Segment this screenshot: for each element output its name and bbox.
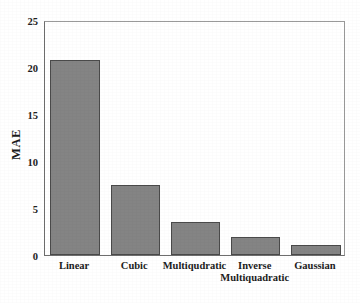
- y-axis-tick-label: 15: [8, 110, 38, 121]
- figure-canvas: MAE 0510152025 LinearCubicMultiqudraticI…: [0, 0, 360, 303]
- y-axis-tick-label: 25: [8, 16, 38, 27]
- bar: [50, 60, 99, 255]
- x-axis-tick-label: Gaussian: [272, 260, 358, 272]
- y-axis-tick-label: 5: [8, 204, 38, 215]
- bar: [171, 222, 220, 255]
- plot-area: [44, 21, 345, 256]
- y-axis-tick-label: 20: [8, 63, 38, 74]
- y-axis-tick-label: 10: [8, 157, 38, 168]
- bar: [231, 237, 280, 255]
- y-axis-label-text: MAE: [9, 129, 24, 160]
- bar: [291, 245, 340, 255]
- bar: [111, 185, 160, 256]
